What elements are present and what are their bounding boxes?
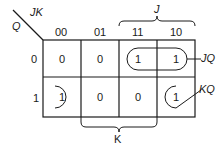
cell-q1-jk10: 1 bbox=[157, 92, 195, 103]
cell-q1-jk00: 1 bbox=[43, 92, 81, 103]
row-var-label: Q bbox=[12, 21, 21, 32]
col-header-11: 11 bbox=[132, 27, 143, 38]
col-header-00: 00 bbox=[55, 27, 67, 38]
row-header-0: 0 bbox=[31, 54, 37, 65]
kq-group-label: KQ bbox=[199, 84, 215, 95]
k-brace bbox=[81, 117, 157, 132]
k-brace-label: K bbox=[114, 134, 121, 145]
cell-q0-jk01: 0 bbox=[81, 54, 119, 65]
row-header-1: 1 bbox=[33, 93, 39, 104]
jq-group-label: JQ bbox=[201, 53, 215, 64]
col-header-10: 10 bbox=[170, 27, 182, 38]
cell-q1-jk11: 0 bbox=[119, 92, 157, 103]
col-var-label: JK bbox=[30, 7, 43, 18]
cell-q1-jk01: 0 bbox=[81, 92, 119, 103]
j-brace bbox=[119, 16, 195, 26]
cell-q0-jk00: 0 bbox=[43, 54, 81, 65]
cell-q0-jk10: 1 bbox=[157, 54, 195, 65]
col-header-01: 01 bbox=[94, 27, 106, 38]
kmap-drawing bbox=[0, 0, 221, 156]
j-brace-label: J bbox=[154, 4, 160, 15]
cell-q0-jk11: 1 bbox=[119, 54, 157, 65]
